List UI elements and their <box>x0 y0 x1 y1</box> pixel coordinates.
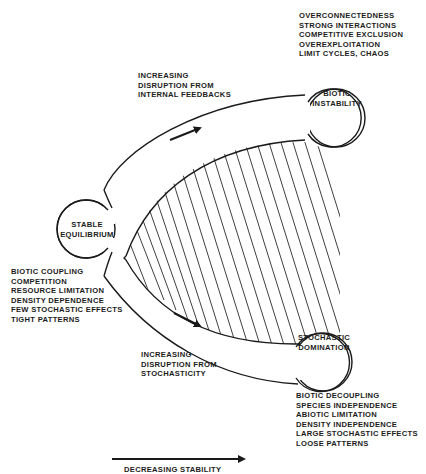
upper-path-label: INCREASING DISRUPTION FROM INTERNAL FEED… <box>138 71 231 100</box>
upper-path-inner-edge <box>126 140 305 256</box>
node-label-stochastic-domination: STOCHASTIC DOMINATION <box>294 333 354 352</box>
node-label-biotic-instability: BIOTIC INSTABILITY <box>306 89 368 108</box>
lower-path-label: INCREASING DISRUPTION FROM STOCHASTICITY <box>141 350 217 379</box>
stochastic-domination-traits: BIOTIC DECOUPLING SPECIES INDEPENDENCE A… <box>296 391 418 449</box>
decreasing-stability-label: DECREASING STABILITY <box>124 465 221 474</box>
node-label-stable-equilibrium: STABLE EQUILIBRIUM <box>58 220 116 239</box>
biotic-instability-traits: OVERCONNECTEDNESS STRONG INTERACTIONS CO… <box>299 11 403 59</box>
stable-equilibrium-traits: BIOTIC COUPLING COMPETITION RESOURCE LIM… <box>11 267 123 325</box>
upper-path-arrow-icon <box>170 128 200 140</box>
